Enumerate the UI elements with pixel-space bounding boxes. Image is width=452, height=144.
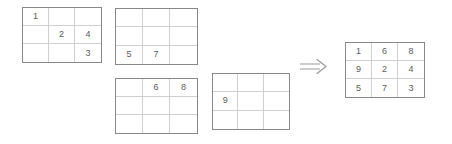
grid-cell: 4: [398, 61, 424, 79]
grid-cell: [116, 79, 143, 97]
input-grid-2: 5 7: [115, 8, 198, 65]
grid-cell: [116, 97, 143, 115]
grid-cell: [170, 97, 197, 115]
grid-cell: 4: [75, 26, 101, 44]
grid-cell: [49, 8, 75, 26]
grid-cell: [238, 92, 263, 110]
grid-cell: [238, 111, 263, 129]
grid-cell: 2: [49, 26, 75, 44]
grid-cell: 3: [75, 44, 101, 62]
grid-cell: 2: [372, 61, 398, 79]
input-grid-1: 1 2 4 3: [22, 7, 102, 63]
grid-cell: [75, 8, 101, 26]
grid-cell: [238, 74, 263, 92]
grid-cell: 3: [398, 79, 424, 97]
grid-cell: [116, 27, 143, 45]
grid-cell: [143, 9, 170, 27]
double-right-arrow-icon: [298, 58, 330, 76]
grid-cell: 5: [116, 46, 143, 64]
grid-cell: [264, 74, 289, 92]
grid-cell: [143, 27, 170, 45]
grid-cell: 5: [346, 79, 372, 97]
grid-cell: [170, 27, 197, 45]
input-grid-4: 9: [212, 73, 290, 130]
grid-cell: [23, 26, 49, 44]
grid-cell: [116, 9, 143, 27]
grid-cell: [170, 46, 197, 64]
grid-cell: [264, 92, 289, 110]
grid-cell: [264, 111, 289, 129]
grid-cell: [170, 115, 197, 133]
grid-cell: [213, 74, 238, 92]
grid-cell: [49, 44, 75, 62]
grid-cell: [116, 115, 143, 133]
grid-cell: 6: [372, 43, 398, 61]
grid-cell: 6: [143, 79, 170, 97]
grid-cell: [143, 97, 170, 115]
grid-cell: 1: [346, 43, 372, 61]
grid-cell: 9: [346, 61, 372, 79]
grid-cell: 8: [170, 79, 197, 97]
grid-cell: [170, 9, 197, 27]
grid-cell: 7: [372, 79, 398, 97]
result-grid: 1 6 8 9 2 4 5 7 3: [345, 42, 425, 98]
grid-cell: 7: [143, 46, 170, 64]
grid-cell: [213, 111, 238, 129]
diagram-canvas: 1 2 4 3 5 7 6 8 9: [0, 0, 452, 144]
grid-cell: 9: [213, 92, 238, 110]
grid-cell: [23, 44, 49, 62]
grid-cell: 1: [23, 8, 49, 26]
grid-cell: 8: [398, 43, 424, 61]
grid-cell: [143, 115, 170, 133]
input-grid-3: 6 8: [115, 78, 198, 134]
